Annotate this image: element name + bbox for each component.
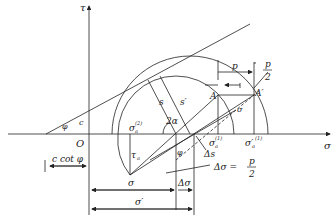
svg-text:(1): (1) xyxy=(215,135,222,141)
svg-text:(1): (1) xyxy=(255,135,262,141)
dim-sigma-label: σ xyxy=(128,178,135,188)
delta-s-label: Δs xyxy=(203,149,215,159)
phi-lower-label: φ xyxy=(177,148,183,157)
c-cot-phi-label: c cot φ xyxy=(52,154,84,164)
c-label: c xyxy=(79,118,84,127)
dim-delta-sigma-label: Δσ xyxy=(177,178,191,188)
p-half-den: 2 xyxy=(264,72,271,82)
svg-text:a: a xyxy=(135,128,138,134)
p-label: p xyxy=(232,61,238,71)
phi-label: φ xyxy=(62,122,68,131)
lower-arc xyxy=(118,134,130,175)
svg-text:a: a xyxy=(215,143,218,149)
s-prime-label: s′ xyxy=(180,97,187,107)
svg-text:2: 2 xyxy=(248,169,255,179)
mohr-diagram: τ σ O φ c c cot φ σ a (2) σ a (1) σ′ a (… xyxy=(0,0,336,221)
point-A-prime-label: A′ xyxy=(254,88,264,98)
two-alpha-label: 2α xyxy=(165,116,178,126)
point-A-label: A xyxy=(209,91,217,101)
dim-sigma-prime-label: σ′ xyxy=(135,197,143,207)
svg-text:(2): (2) xyxy=(135,120,142,126)
origin-label: O xyxy=(76,138,84,149)
delta-sigma-eq-label: Δσ = xyxy=(213,162,237,172)
svg-text:p: p xyxy=(249,156,255,166)
p-half-num: p xyxy=(265,59,271,69)
sigma-small-label: σ xyxy=(237,105,243,114)
s-label: s xyxy=(159,97,164,107)
svg-text:a: a xyxy=(137,155,140,161)
tau-axis-label: τ xyxy=(80,2,86,13)
svg-text:a: a xyxy=(252,143,255,149)
sigma-axis-label: σ xyxy=(324,140,332,151)
